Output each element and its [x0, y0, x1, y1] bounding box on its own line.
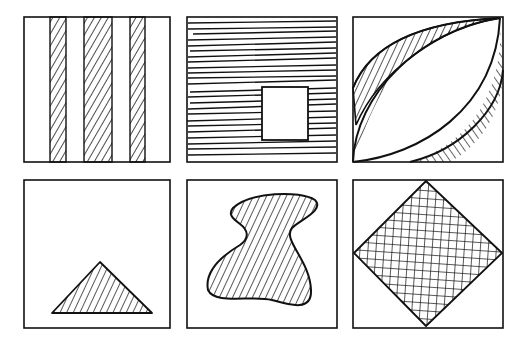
figure-canvas [0, 0, 525, 347]
panel-lens [353, 17, 503, 162]
blank-square [262, 87, 308, 140]
hatched-stripe [50, 17, 66, 162]
panel-triangle [24, 180, 170, 328]
hatched-stripe [84, 17, 112, 162]
panel-diamond [353, 180, 503, 328]
panel-blob [187, 180, 337, 328]
hatched-stripe [130, 17, 145, 162]
panel-square-cutout [185, 17, 337, 162]
panel-vertical-stripes [24, 17, 170, 162]
